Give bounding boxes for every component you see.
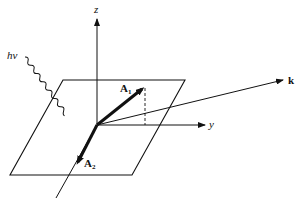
- vector-diagram: z y k hν A1 A2: [0, 0, 304, 207]
- photon-wave-line: [14, 56, 76, 116]
- a2-vector-label: A2: [84, 157, 96, 171]
- y-axis-label: y: [208, 118, 214, 130]
- k-vector-label: k: [288, 74, 295, 86]
- photon-label: hν: [7, 49, 18, 61]
- z-axis-label: z: [93, 3, 99, 15]
- a1-vector-label: A1: [120, 82, 132, 96]
